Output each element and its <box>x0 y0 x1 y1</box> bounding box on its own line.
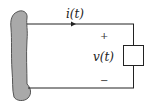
plus-sign: + <box>100 30 108 41</box>
circuit-diagram: i(t) + v(t) − <box>0 0 156 109</box>
circuit-element-box <box>124 46 144 66</box>
minus-sign: − <box>100 75 108 86</box>
current-arrow-icon <box>71 22 76 27</box>
voltage-label: v(t) <box>93 50 114 64</box>
current-label: i(t) <box>66 7 84 21</box>
